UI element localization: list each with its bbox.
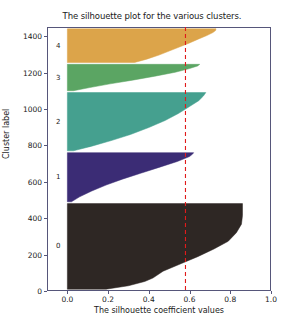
x-tick-mark bbox=[230, 291, 231, 294]
y-tick-mark bbox=[44, 218, 47, 219]
cluster-label-0: 0 bbox=[56, 242, 60, 250]
cluster-label-4: 4 bbox=[56, 42, 60, 50]
x-tick-label: 0.2 bbox=[102, 295, 114, 304]
x-tick-mark bbox=[190, 291, 191, 294]
chart-title: The silhouette plot for the various clus… bbox=[0, 11, 304, 21]
y-tick-label: 200 bbox=[12, 250, 42, 259]
y-tick-mark bbox=[44, 182, 47, 183]
y-tick-label: 0 bbox=[12, 287, 42, 296]
silhouette-plot-figure: The silhouette plot for the various clus… bbox=[0, 0, 304, 327]
cluster-label-3: 3 bbox=[56, 74, 60, 82]
x-tick-mark bbox=[149, 291, 150, 294]
y-tick-mark bbox=[44, 291, 47, 292]
y-tick-label: 400 bbox=[12, 214, 42, 223]
cluster-band-4 bbox=[67, 29, 216, 63]
y-tick-label: 1400 bbox=[12, 32, 42, 41]
y-tick-label: 1000 bbox=[12, 104, 42, 113]
x-tick-label: 0.4 bbox=[143, 295, 155, 304]
x-tick-mark bbox=[67, 291, 68, 294]
x-tick-label: 0.0 bbox=[61, 295, 73, 304]
x-tick-mark bbox=[108, 291, 109, 294]
cluster-label-1: 1 bbox=[56, 173, 60, 181]
cluster-band-3 bbox=[67, 64, 199, 90]
cluster-band-1 bbox=[67, 153, 193, 202]
cluster-label-2: 2 bbox=[56, 118, 60, 126]
x-axis-label: The silhouette coefficient values bbox=[47, 306, 271, 315]
x-tick-label: 1.0 bbox=[265, 295, 277, 304]
y-tick-label: 600 bbox=[12, 177, 42, 186]
cluster-band-0 bbox=[67, 204, 242, 290]
y-tick-label: 1200 bbox=[12, 68, 42, 77]
y-tick-mark bbox=[44, 73, 47, 74]
plot-area: 01234 bbox=[47, 27, 271, 291]
y-tick-mark bbox=[44, 255, 47, 256]
y-axis-label: Cluster label bbox=[2, 109, 11, 159]
y-tick-mark bbox=[44, 36, 47, 37]
y-tick-mark bbox=[44, 109, 47, 110]
x-tick-label: 0.8 bbox=[224, 295, 236, 304]
x-tick-mark bbox=[271, 291, 272, 294]
x-tick-label: 0.6 bbox=[184, 295, 196, 304]
y-tick-label: 800 bbox=[12, 141, 42, 150]
silhouette-bands bbox=[47, 27, 271, 291]
y-tick-mark bbox=[44, 145, 47, 146]
